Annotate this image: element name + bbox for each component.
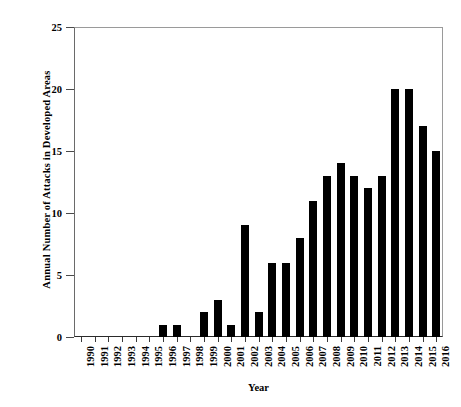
x-tick-2014: [409, 337, 410, 342]
x-tick-2012: [382, 337, 383, 342]
x-tick-label-2005: 2005: [290, 346, 301, 367]
x-tick-1991: [95, 337, 96, 342]
y-tick-label: 10: [32, 208, 62, 219]
y-tick-label: 25: [32, 22, 62, 33]
bar-2005: [282, 263, 290, 337]
y-tick-label: 0: [32, 332, 62, 343]
x-tick-label-1999: 1999: [208, 346, 219, 367]
bar-chart: Annual Number of Attacks in Developed Ar…: [0, 0, 461, 407]
x-tick-label-2008: 2008: [331, 346, 342, 367]
x-tick-label-2000: 2000: [222, 346, 233, 367]
x-tick-1998: [190, 337, 191, 342]
bar-1999: [200, 312, 208, 337]
x-tick-2000: [218, 337, 219, 342]
x-tick-2015: [423, 337, 424, 342]
y-tick-label: 20: [32, 84, 62, 95]
bar-2015: [419, 126, 427, 337]
x-tick-label-1998: 1998: [194, 346, 205, 367]
x-tick-1992: [108, 337, 109, 342]
bar-2009: [337, 163, 345, 337]
x-tick-label-2007: 2007: [317, 346, 328, 367]
x-tick-label-2001: 2001: [235, 346, 246, 367]
x-tick-label-2014: 2014: [413, 346, 424, 367]
x-tick-label-2009: 2009: [345, 346, 356, 367]
x-tick-label-1997: 1997: [181, 346, 192, 367]
x-tick-1999: [204, 337, 205, 342]
bar-2002: [241, 225, 249, 337]
y-tick-20: [66, 89, 74, 90]
x-tick-2007: [313, 337, 314, 342]
x-tick-label-1994: 1994: [140, 346, 151, 367]
y-tick-label: 5: [32, 270, 62, 281]
bar-2007: [309, 201, 317, 337]
x-axis-title: Year: [74, 382, 443, 393]
bar-2014: [405, 89, 413, 337]
bar-2003: [255, 312, 263, 337]
x-tick-label-1993: 1993: [126, 346, 137, 367]
bar-2004: [268, 263, 276, 337]
bar-2010: [350, 176, 358, 337]
x-tick-2006: [300, 337, 301, 342]
x-tick-2016: [436, 337, 437, 342]
x-tick-label-2013: 2013: [399, 346, 410, 367]
x-tick-label-1995: 1995: [153, 346, 164, 367]
x-tick-2013: [395, 337, 396, 342]
bar-2012: [378, 176, 386, 337]
y-tick-15: [66, 151, 74, 152]
y-tick-label: 15: [32, 146, 62, 157]
x-tick-2002: [245, 337, 246, 342]
x-tick-1995: [149, 337, 150, 342]
y-tick-10: [66, 213, 74, 214]
x-tick-label-2003: 2003: [263, 346, 274, 367]
bar-1997: [173, 325, 181, 337]
bar-2006: [296, 238, 304, 337]
x-tick-1997: [177, 337, 178, 342]
x-tick-2001: [231, 337, 232, 342]
x-tick-label-1991: 1991: [99, 346, 110, 367]
x-tick-label-2012: 2012: [386, 346, 397, 367]
x-tick-label-2006: 2006: [304, 346, 315, 367]
bar-2016: [432, 151, 440, 337]
x-tick-2005: [286, 337, 287, 342]
y-tick-25: [66, 27, 74, 28]
x-tick-label-1990: 1990: [85, 346, 96, 367]
bar-1996: [159, 325, 167, 337]
x-tick-2008: [327, 337, 328, 342]
bar-2008: [323, 176, 331, 337]
bar-2001: [227, 325, 235, 337]
x-tick-2009: [341, 337, 342, 342]
y-axis-title: Annual Number of Attacks in Developed Ar…: [41, 30, 52, 330]
x-tick-label-1992: 1992: [112, 346, 123, 367]
y-tick-0: [66, 337, 74, 338]
x-tick-1990: [81, 337, 82, 342]
x-tick-label-2002: 2002: [249, 346, 260, 367]
x-tick-label-2011: 2011: [372, 346, 383, 366]
x-tick-label-2004: 2004: [276, 346, 287, 367]
x-tick-2011: [368, 337, 369, 342]
x-tick-2004: [272, 337, 273, 342]
x-tick-label-2016: 2016: [440, 346, 451, 367]
bar-2013: [391, 89, 399, 337]
x-tick-1993: [122, 337, 123, 342]
bar-2000: [214, 300, 222, 337]
x-tick-label-2010: 2010: [358, 346, 369, 367]
x-tick-2003: [259, 337, 260, 342]
bar-2011: [364, 188, 372, 337]
x-tick-1994: [136, 337, 137, 342]
x-tick-label-2015: 2015: [427, 346, 438, 367]
x-tick-2010: [354, 337, 355, 342]
x-tick-1996: [163, 337, 164, 342]
plot-area: [74, 27, 443, 337]
x-tick-label-1996: 1996: [167, 346, 178, 367]
y-tick-5: [66, 275, 74, 276]
